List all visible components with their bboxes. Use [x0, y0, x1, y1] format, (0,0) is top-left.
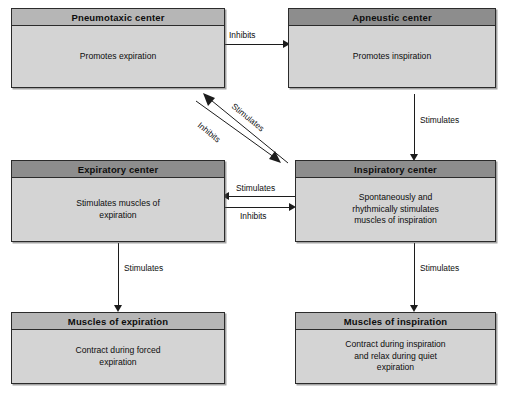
diagram-canvas: Inhibits Stimulates Stimulates Inhibits … — [0, 0, 512, 400]
node-pneumotaxic-center[interactable]: Pneumotaxic center Promotes expiration — [11, 8, 225, 88]
node-body-muscles-expiration: Contract during forced expiration — [12, 330, 224, 383]
edge-line-inspiratory-to-expiratory — [228, 196, 296, 197]
node-title-apneustic: Apneustic center — [289, 9, 495, 26]
edge-line-inspiratory-to-muscles — [414, 243, 415, 308]
node-body-inspiratory: Spontaneously and rhythmically stimulate… — [296, 178, 495, 241]
edge-line-apneustic-to-inspiratory — [414, 94, 415, 156]
edge-line-expiratory-to-muscles — [118, 243, 119, 308]
node-inspiratory-center[interactable]: Inspiratory center Spontaneously and rhy… — [295, 160, 496, 242]
node-apneustic-center[interactable]: Apneustic center Promotes inspiration — [288, 8, 496, 88]
node-title-muscles-inspiration: Muscles of inspiration — [296, 313, 495, 330]
node-body-expiratory: Stimulates muscles of expiration — [12, 178, 224, 241]
node-body-apneustic: Promotes inspiration — [289, 26, 495, 87]
edge-label-stimulates-inspiratory-muscles: Stimulates — [420, 263, 459, 273]
arrowhead-down-to-muscles-inspiration — [410, 305, 418, 312]
arrowhead-down-to-muscles-expiration — [114, 305, 122, 312]
edge-line-pneumotaxic-to-apneustic — [224, 44, 284, 45]
edge-line-expiratory-to-inspiratory — [224, 207, 290, 208]
edge-label-stimulates-middle: Stimulates — [236, 183, 275, 193]
node-expiratory-center[interactable]: Expiratory center Stimulates muscles of … — [11, 160, 225, 242]
edge-label-stimulates-diagonal: Stimulates — [230, 101, 267, 133]
node-title-expiratory: Expiratory center — [12, 161, 224, 178]
node-title-inspiratory: Inspiratory center — [296, 161, 495, 178]
edge-label-inhibits-diagonal: Inhibits — [196, 120, 223, 144]
edge-label-inhibits-top: Inhibits — [229, 30, 256, 40]
node-body-muscles-inspiration: Contract during inspiration and relax du… — [296, 330, 495, 383]
edge-label-stimulates-expiratory-muscles: Stimulates — [124, 263, 163, 273]
node-muscles-of-inspiration[interactable]: Muscles of inspiration Contract during i… — [295, 312, 496, 384]
node-body-pneumotaxic: Promotes expiration — [12, 26, 224, 87]
edge-label-stimulates-apneustic-inspiratory: Stimulates — [420, 115, 459, 125]
node-muscles-of-expiration[interactable]: Muscles of expiration Contract during fo… — [11, 312, 225, 384]
node-title-muscles-expiration: Muscles of expiration — [12, 313, 224, 330]
edge-label-inhibits-middle: Inhibits — [240, 211, 267, 221]
node-title-pneumotaxic: Pneumotaxic center — [12, 9, 224, 26]
